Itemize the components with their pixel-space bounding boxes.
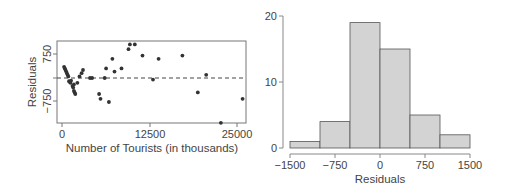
- histogram-bar: [350, 23, 380, 148]
- histogram-bars: [290, 23, 470, 148]
- scatter-point: [97, 92, 101, 96]
- x-tick-label: 0: [59, 128, 65, 140]
- y-tick-label: 0: [271, 142, 277, 154]
- x-tick-label: 12500: [135, 128, 166, 140]
- y-tick-label: 20: [265, 10, 277, 22]
- scatter-point: [151, 78, 155, 82]
- histogram-bar: [410, 115, 440, 148]
- scatter-point: [196, 91, 200, 95]
- histogram-bar: [380, 49, 410, 148]
- scatter-point: [72, 83, 76, 87]
- residual-histogram: 20 10 0 −1500 −750 0 750 1500 Residuals: [265, 10, 482, 185]
- residual-scatter-plot: 750 −750 Residuals 0 12500 25000 Number …: [26, 41, 252, 154]
- x-tick-label: 25000: [222, 128, 253, 140]
- scatter-point: [103, 76, 107, 80]
- figure: 750 −750 Residuals 0 12500 25000 Number …: [0, 0, 506, 192]
- scatter-point: [241, 97, 245, 101]
- scatter-point: [113, 70, 117, 74]
- scatter-frame: [57, 41, 246, 123]
- scatter-point: [120, 67, 124, 71]
- y-axis-label: Residuals: [26, 57, 38, 108]
- y-tick-label: 750: [41, 45, 53, 63]
- scatter-point: [104, 67, 108, 71]
- scatter-point: [127, 47, 131, 51]
- scatter-point: [204, 73, 208, 77]
- x-tick-label: 0: [377, 159, 383, 171]
- scatter-point: [71, 86, 75, 90]
- scatter-point: [78, 75, 82, 79]
- x-tick-label: 1500: [458, 159, 482, 171]
- y-tick-label: −750: [41, 89, 53, 114]
- scatter-point: [107, 100, 111, 104]
- scatter-point: [111, 57, 115, 61]
- scatter-point: [73, 92, 77, 96]
- x-tick-label: −1500: [275, 159, 306, 171]
- x-axis-label: Residuals: [355, 173, 406, 185]
- histogram-bar: [290, 141, 320, 148]
- scatter-point: [81, 68, 85, 72]
- scatter-points: [62, 43, 244, 125]
- scatter-point: [219, 121, 223, 125]
- histogram-bar: [440, 135, 470, 148]
- scatter-point: [128, 43, 132, 47]
- scatter-point: [181, 54, 185, 58]
- scatter-point: [99, 97, 103, 101]
- x-tick-label: 750: [416, 159, 434, 171]
- histogram-bar: [320, 122, 350, 148]
- scatter-point: [157, 57, 161, 61]
- scatter-point: [69, 79, 73, 83]
- scatter-point: [66, 75, 70, 79]
- y-tick-label: 10: [265, 76, 277, 88]
- x-axis-label: Number of Tourists (in thousands): [66, 142, 239, 154]
- scatter-point: [90, 76, 94, 80]
- scatter-point: [133, 43, 137, 47]
- x-tick-label: −750: [323, 159, 348, 171]
- scatter-point: [76, 81, 80, 85]
- scatter-point: [141, 54, 145, 58]
